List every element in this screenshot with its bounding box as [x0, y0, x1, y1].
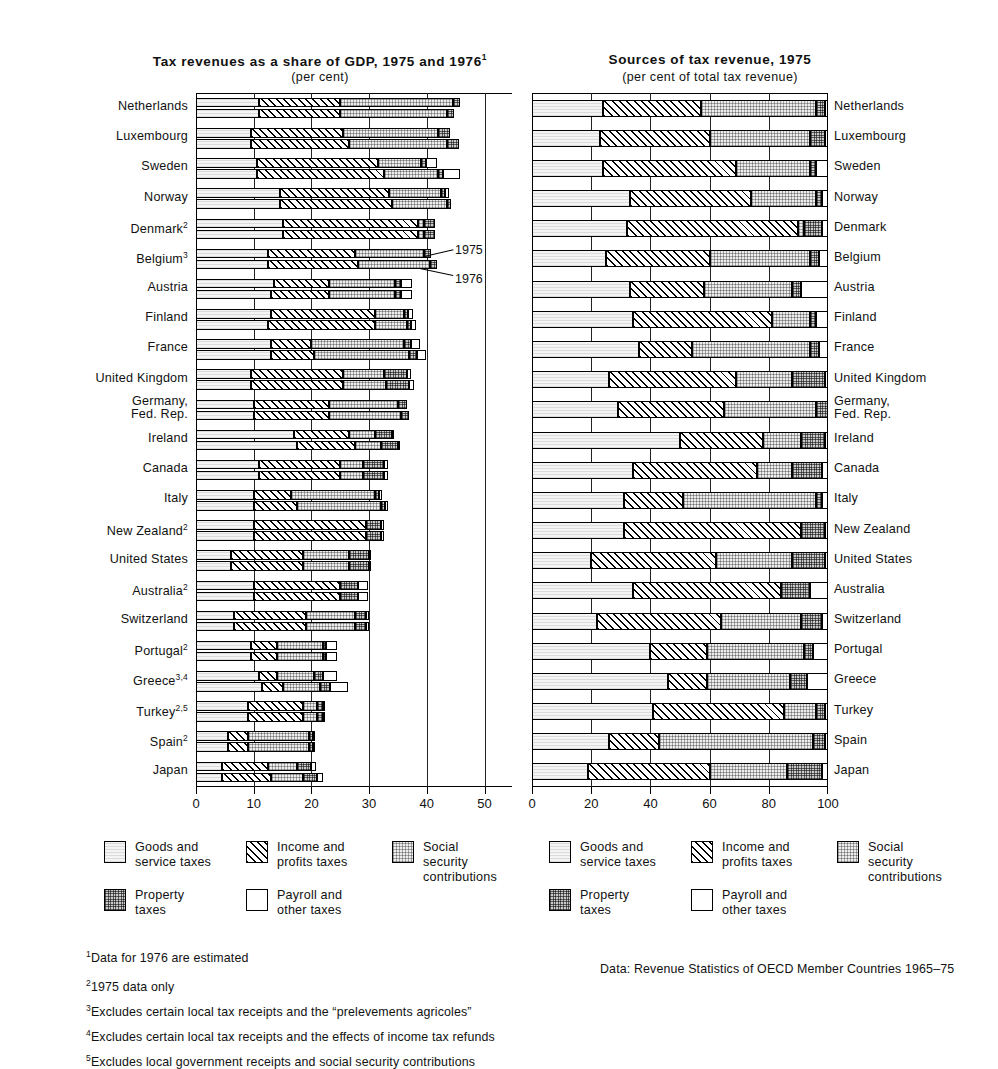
bar-segment-payroll — [317, 773, 323, 783]
label-superscript: 2 — [183, 522, 188, 532]
bar-segment-social — [303, 712, 317, 722]
right-chart-category-label: Luxembourg — [834, 129, 906, 143]
bar-segment-property — [314, 671, 323, 681]
bar-segment-social — [707, 643, 805, 660]
bar-segment-goods — [196, 712, 248, 722]
bar-segment-property — [349, 550, 369, 560]
bar-segment-goods — [196, 309, 271, 319]
bar-segment-social — [329, 411, 401, 421]
bar-segment-payroll — [411, 339, 420, 349]
bar-segment-income — [234, 611, 306, 621]
bar-segment-property — [349, 561, 369, 571]
legend-label-goods: Goods and service taxes — [135, 840, 211, 870]
bar-segment-goods — [532, 220, 627, 237]
right-chart-subtitle: (per cent of total tax revenue) — [540, 70, 880, 84]
bar-segment-property — [810, 341, 819, 358]
left-chart-category-label: Luxembourg — [18, 129, 188, 143]
bar-segment-payroll — [401, 290, 413, 300]
left-chart-category-label: United Kingdom — [18, 371, 188, 385]
bar-segment-goods — [532, 250, 606, 267]
footnote-text: 1975 data only — [91, 980, 174, 994]
label-superscript: 3,4 — [176, 672, 188, 682]
legend-swatch-payroll — [246, 889, 268, 911]
bar-segment-goods — [196, 339, 271, 349]
bar-segment-social — [343, 380, 386, 390]
bar-segment-income — [271, 350, 314, 360]
bar-segment-income — [280, 199, 393, 209]
bar-segment-payroll — [323, 712, 325, 722]
legend-swatch-social — [392, 841, 414, 863]
bar-segment-goods — [532, 371, 609, 388]
bar-segment-payroll — [366, 622, 368, 632]
bar-segment-social — [692, 341, 810, 358]
bar-segment-social — [329, 290, 395, 300]
bar-segment-goods — [196, 671, 259, 681]
bar-segment-social — [721, 613, 801, 630]
bar-segment-property — [363, 471, 383, 481]
bar-segment-goods — [196, 652, 251, 662]
bar-segment-income — [248, 712, 303, 722]
right-chart-category-label: Switzerland — [834, 612, 901, 626]
left-chart-category-label: Greece3,4 — [18, 672, 188, 688]
bar-segment-payroll — [822, 763, 828, 780]
bar-segment-property — [792, 552, 825, 569]
right-chart-category-label: Denmark — [834, 220, 887, 234]
bar-segment-goods — [196, 128, 251, 138]
bar-segment-goods — [196, 762, 222, 772]
bar-segment-social — [303, 550, 349, 560]
bar-segment-social — [277, 641, 323, 651]
label-superscript: 2 — [183, 582, 188, 592]
label-superscript: 2 — [183, 642, 188, 652]
x-tick-label: 100 — [808, 796, 848, 811]
bar-segment-income — [618, 401, 725, 418]
bar-segment-payroll — [369, 550, 371, 560]
bar-segment-income — [606, 250, 710, 267]
x-tick-label: 80 — [749, 796, 789, 811]
bar-segment-goods — [196, 411, 254, 421]
bar-segment-goods — [532, 492, 624, 509]
bar-segment-income — [254, 400, 329, 410]
bar-segment-social — [736, 371, 792, 388]
bar-segment-property — [398, 400, 407, 410]
bar-segment-property — [340, 581, 357, 591]
footnote-4: 4Excludes certain local tax receipts and… — [86, 1028, 495, 1044]
bar-segment-goods — [196, 592, 254, 602]
bar-segment-payroll — [822, 492, 828, 509]
bar-segment-social — [277, 671, 315, 681]
bar-segment-goods — [196, 290, 271, 300]
bar-segment-income — [251, 652, 277, 662]
left-chart-category-label: New Zealand2 — [18, 522, 188, 538]
bar-segment-property — [355, 611, 367, 621]
x-tick-label: 40 — [630, 796, 670, 811]
bar-segment-payroll — [323, 671, 337, 681]
left-chart-category-label: Australia2 — [18, 582, 188, 598]
label-superscript: 2 — [183, 733, 188, 743]
bar-segment-goods — [196, 471, 259, 481]
bar-segment-goods — [196, 369, 251, 379]
bar-segment-property — [430, 260, 438, 270]
bar-segment-social — [355, 249, 424, 259]
bar-segment-property — [401, 411, 410, 421]
bar-segment-income — [248, 701, 303, 711]
bar-segment-property — [801, 613, 822, 630]
left-chart-category-label: Portugal2 — [18, 642, 188, 658]
bar-segment-property — [303, 773, 317, 783]
bar-segment-income — [268, 249, 355, 259]
bar-segment-social — [707, 673, 790, 690]
bar-segment-social — [384, 169, 439, 179]
bar-segment-property — [375, 430, 392, 440]
bar-segment-income — [627, 220, 799, 237]
bar-segment-payroll — [384, 471, 388, 481]
bar-segment-payroll — [807, 673, 828, 690]
right-chart-category-label: Sweden — [834, 159, 881, 173]
footnote-text: Excludes local government receipts and s… — [91, 1055, 475, 1069]
data-source: Data: Revenue Statistics of OECD Member … — [600, 962, 954, 976]
bar-segment-payroll — [825, 552, 828, 569]
bar-segment-income — [639, 341, 692, 358]
bar-segment-payroll — [825, 130, 828, 147]
x-tick — [311, 787, 312, 794]
bar-segment-payroll — [398, 441, 400, 451]
bar-segment-payroll — [409, 380, 413, 390]
bar-segment-property — [404, 339, 412, 349]
bar-segment-income — [259, 98, 340, 108]
